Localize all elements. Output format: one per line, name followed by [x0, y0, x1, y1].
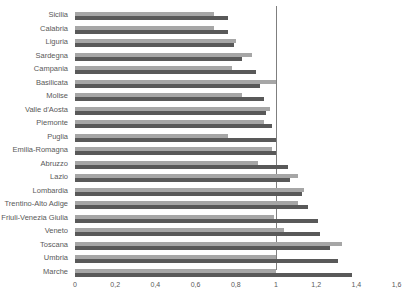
- category-label: Molise: [46, 91, 68, 100]
- x-tick-label: 1,4: [352, 281, 362, 288]
- bar-series-2: [75, 192, 302, 196]
- bar-series-2: [75, 259, 338, 263]
- category-label: Puglia: [47, 132, 68, 141]
- x-tick-label: 0: [73, 281, 77, 288]
- x-tick-label: 0,4: [151, 281, 161, 288]
- x-tick-label: 1: [274, 281, 278, 288]
- category-label: Friuli-Venezia Giulia: [1, 213, 68, 222]
- bar-series-2: [75, 124, 272, 128]
- bar-series-2: [75, 178, 290, 182]
- category-label: Veneto: [45, 226, 68, 235]
- category-label: Marche: [43, 267, 68, 276]
- category-label: Umbria: [44, 253, 68, 262]
- category-label: Toscana: [40, 240, 68, 249]
- bar-series-2: [75, 30, 228, 34]
- bar-series-2: [75, 273, 352, 277]
- x-tick-label: 0,8: [231, 281, 241, 288]
- x-tick-label: 0,2: [110, 281, 120, 288]
- category-label: Piemonte: [36, 118, 68, 127]
- bar-series-2: [75, 165, 288, 169]
- category-label: Valle d'Aosta: [25, 105, 68, 114]
- bar-series-2: [75, 219, 318, 223]
- category-label: Trentino-Alto Adige: [4, 199, 68, 208]
- bar-series-2: [75, 43, 234, 47]
- category-label: Basilicata: [36, 78, 68, 87]
- bar-series-2: [75, 97, 264, 101]
- category-label: Sicilia: [48, 10, 68, 19]
- bar-chart: SiciliaCalabriaLiguriaSardegnaCampaniaBa…: [0, 0, 409, 295]
- bar-series-2: [75, 246, 330, 250]
- x-tick-label: 1,6: [392, 281, 402, 288]
- bar-series-2: [75, 57, 242, 61]
- x-tick-label: 0,6: [191, 281, 201, 288]
- category-label: Abruzzo: [40, 159, 68, 168]
- bar-series-2: [75, 84, 260, 88]
- category-label: Sardegna: [35, 51, 68, 60]
- category-label: Liguria: [45, 37, 68, 46]
- bar-series-2: [75, 70, 256, 74]
- bar-series-2: [75, 111, 266, 115]
- category-label: Campania: [34, 64, 68, 73]
- bar-series-2: [75, 232, 320, 236]
- bar-series-2: [75, 16, 228, 20]
- category-label: Lazio: [50, 172, 68, 181]
- bar-series-2: [75, 151, 276, 155]
- category-label: Emilia-Romagna: [13, 145, 68, 154]
- x-tick-label: 1,2: [311, 281, 321, 288]
- bar-series-2: [75, 138, 276, 142]
- bar-series-2: [75, 205, 308, 209]
- category-label: Lombardia: [33, 186, 68, 195]
- category-label: Calabria: [40, 24, 68, 33]
